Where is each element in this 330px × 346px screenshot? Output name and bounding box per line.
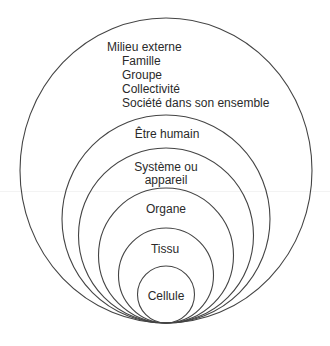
outer-item-collectivite: Collectivité [122,82,180,96]
label-systeme-line2: appareil [145,173,188,187]
outer-title: Milieu externe [107,40,182,54]
label-cellule: Cellule [148,289,185,303]
label-tissu: Tissu [151,242,179,256]
label-etre-humain: Être humain [135,127,200,141]
outer-item-societe: Société dans son ensemble [122,96,269,110]
label-organe: Organe [146,202,186,216]
outer-item-groupe: Groupe [122,68,162,82]
label-systeme-line1: Système ou [134,160,197,174]
outer-item-famille: Famille [122,54,161,68]
